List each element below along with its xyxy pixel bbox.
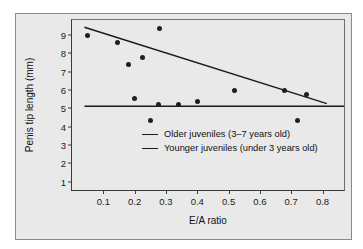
legend-label-younger: Younger juveniles (under 3 years old)	[164, 142, 318, 156]
x-tick-mark	[103, 190, 104, 194]
x-tick-mark	[135, 190, 136, 194]
chart-legend: Older juveniles (3–7 years old) Younger …	[142, 128, 318, 155]
y-tick-label: 8	[61, 48, 72, 59]
x-tick-label: 0.2	[128, 196, 141, 207]
x-tick-label: 0.1	[97, 196, 110, 207]
x-tick-mark	[197, 190, 198, 194]
x-tick-label: 0.4	[191, 196, 204, 207]
y-tick-label: 3	[61, 140, 72, 151]
y-axis-title: Penis tip length (mm)	[24, 19, 38, 191]
legend-item-older: Older juveniles (3–7 years old)	[142, 128, 318, 142]
x-tick-label: 0.7	[285, 196, 298, 207]
y-tick-label: 2	[61, 158, 72, 169]
y-tick-label: 1	[61, 176, 72, 187]
trend-line-older	[84, 27, 326, 103]
x-tick-mark	[260, 190, 261, 194]
x-tick-label: 0.5	[222, 196, 235, 207]
x-tick-mark	[166, 190, 167, 194]
y-tick-label: 7	[61, 66, 72, 77]
data-point	[132, 96, 137, 101]
data-point	[295, 118, 300, 123]
x-tick-mark	[291, 190, 292, 194]
data-point	[157, 26, 162, 31]
legend-label-older: Older juveniles (3–7 years old)	[164, 128, 290, 142]
chart-svg	[72, 20, 344, 190]
y-tick-label: 6	[61, 84, 72, 95]
x-tick-mark	[323, 190, 324, 194]
data-point	[126, 62, 131, 67]
x-tick-mark	[229, 190, 230, 194]
x-axis-title: E/A ratio	[71, 215, 345, 226]
y-tick-label: 5	[61, 103, 72, 114]
x-tick-label: 0.6	[253, 196, 266, 207]
plot-area: 123456789 0.10.20.30.40.50.60.70.8 Older…	[71, 19, 345, 191]
y-tick-label: 9	[61, 29, 72, 40]
legend-line-icon	[142, 148, 158, 149]
data-point	[156, 102, 161, 107]
legend-line-icon	[142, 134, 158, 135]
x-tick-label: 0.3	[159, 196, 172, 207]
legend-item-younger: Younger juveniles (under 3 years old)	[142, 142, 318, 156]
x-tick-label: 0.8	[316, 196, 329, 207]
y-tick-label: 4	[61, 121, 72, 132]
data-point	[148, 118, 153, 123]
figure-panel: Penis tip length (mm) 123456789 0.10.20.…	[15, 13, 352, 240]
